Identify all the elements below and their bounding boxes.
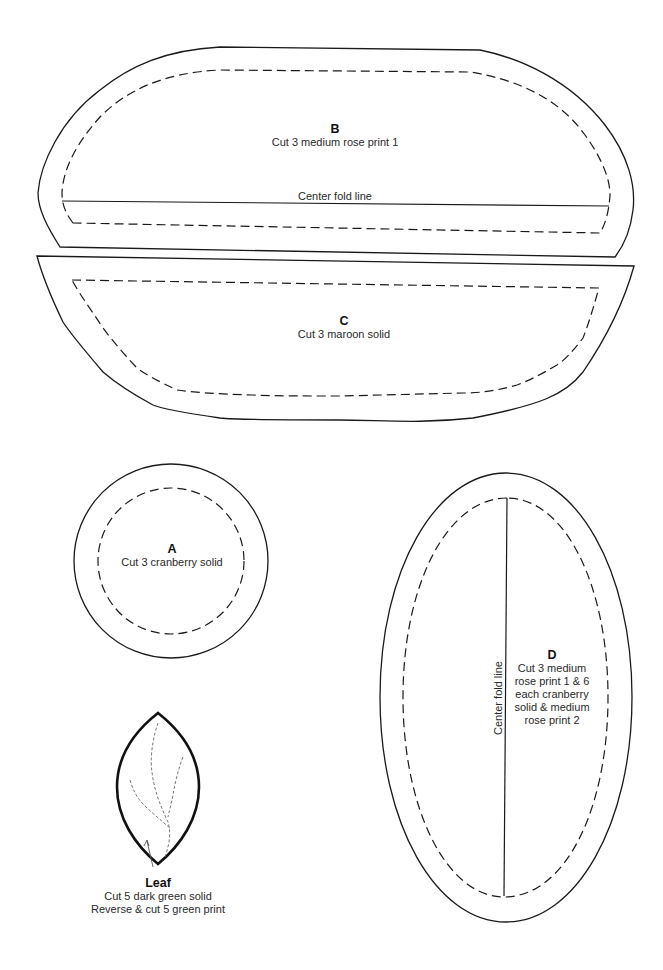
piece-b-instruction: Cut 3 medium rose print 1 <box>272 136 399 149</box>
piece-b <box>38 47 634 257</box>
leaf-instruction-2: Reverse & cut 5 green print <box>91 903 225 916</box>
piece-d-fold-label: Center fold line <box>492 661 504 735</box>
piece-d-letter: D <box>514 648 589 662</box>
piece-a-label: A Cut 3 cranberry solid <box>121 542 223 569</box>
piece-a-letter: A <box>121 542 223 556</box>
leaf-cutting-line <box>117 713 199 864</box>
piece-d-instruction-5: rose print 2 <box>514 714 589 727</box>
piece-d-label: D Cut 3 medium rose print 1 & 6 each cra… <box>514 648 589 727</box>
leaf-instruction-1: Cut 5 dark green solid <box>91 890 225 903</box>
piece-a-instruction: Cut 3 cranberry solid <box>121 556 223 569</box>
piece-b-seam-line <box>62 70 610 233</box>
piece-c-instruction: Cut 3 maroon solid <box>298 328 390 341</box>
piece-d-center-fold-line <box>504 498 507 896</box>
piece-c-letter: C <box>298 314 390 328</box>
piece-b-cutting-line <box>38 47 634 257</box>
leaf-label: Leaf Cut 5 dark green solid Reverse & cu… <box>91 876 225 916</box>
piece-d-instruction-4: solid & medium <box>514 701 589 714</box>
piece-d-instruction-3: each cranberry <box>514 688 589 701</box>
piece-b-fold-label: Center fold line <box>298 190 372 202</box>
piece-b-label: B Cut 3 medium rose print 1 <box>272 122 399 149</box>
piece-c-label: C Cut 3 maroon solid <box>298 314 390 341</box>
piece-d-instruction-1: Cut 3 medium <box>514 662 589 675</box>
piece-d-instruction-2: rose print 1 & 6 <box>514 675 589 688</box>
leaf-vein-left <box>130 780 170 828</box>
leaf-vein-right <box>168 757 183 817</box>
piece-b-letter: B <box>272 122 399 136</box>
piece-d <box>380 473 632 922</box>
leaf-letter: Leaf <box>91 876 225 890</box>
leaf-vein-main <box>151 723 169 857</box>
piece-leaf <box>117 713 199 867</box>
